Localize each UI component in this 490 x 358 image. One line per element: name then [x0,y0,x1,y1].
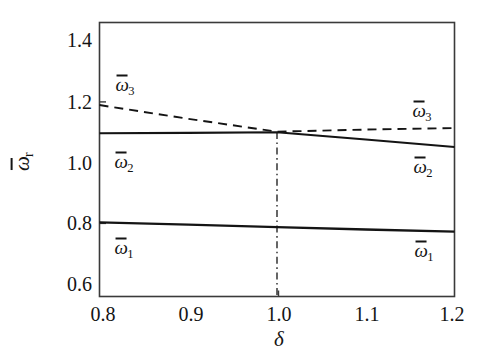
x-tick-label-1-2: 1.2 [440,303,465,326]
y-axis-title-symbol: ω [10,156,35,171]
x-axis-title: δ [274,327,284,352]
y-axis-title: ωr [14,148,33,175]
overbar [414,157,425,159]
overbar [115,238,126,240]
x-tick-label-0-9: 0.9 [179,303,204,326]
overbar [116,75,127,77]
curve-label-omega1-left: ω1 [115,237,134,262]
y-tick-label-1-4: 1.4 [0,29,92,52]
y-tick-label-0-8: 0.8 [0,212,92,235]
overbar [415,241,426,243]
x-tick-label-0-8: 0.8 [91,303,116,326]
overbar [115,152,126,154]
curve-label-omega1-right: ω1 [415,240,434,265]
overbar [11,158,13,170]
y-tick-label-0-6: 0.6 [0,273,92,296]
curve-label-omega3-left: ω3 [116,74,135,99]
y-tick-label-1-2: 1.2 [0,90,92,113]
overbar [413,101,424,103]
x-tick-label-1-1: 1.1 [355,303,380,326]
curve-label-omega3-right: ω3 [413,100,432,125]
curve-label-omega2-right: ω2 [414,156,433,181]
x-tick-label-1-0: 1.0 [267,303,292,326]
curve-label-omega2-left: ω2 [115,151,134,176]
chart-figure: 1.4 1.2 1.0 0.8 0.6 0.8 0.9 1.0 1.1 1.2 … [0,0,490,358]
